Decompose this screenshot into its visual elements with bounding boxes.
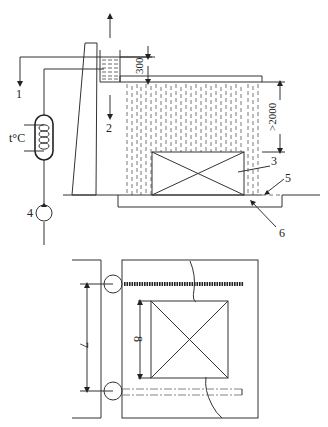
nozzle-5: 5 [262,171,291,195]
break-line-top [190,261,196,302]
schematic-diagram: 1 t°C 4 [0,0,328,427]
spray-rain [127,84,258,195]
heater: t°C [9,115,53,160]
heater-temp-label: t°C [9,131,25,145]
plan-view: 7 8 [72,260,258,418]
dimension-2000: >2000 [262,83,285,152]
dimension-300: 300 [120,46,155,82]
label-7: 7 [77,342,91,348]
label-2: 2 [106,121,112,135]
label-1: 1 [16,87,22,101]
dimension-2000-label: >2000 [266,102,278,131]
overflow-tank [100,50,120,82]
inlet-arrow-2: 2 [106,95,112,135]
distribution-plate [120,76,262,82]
basin-6: 6 [118,195,320,240]
specimen-3: 3 [152,152,277,195]
heating-coil-icon [39,125,49,149]
supply-pipe [44,69,104,245]
dimension-300-label: 300 [133,57,145,74]
label-3: 3 [271,154,277,168]
dimension-7: 7 [77,285,91,390]
label-5: 5 [285,171,291,185]
pump: 4 [27,203,52,221]
pump-icon [36,205,52,221]
label-4: 4 [27,206,33,220]
break-line-bottom [206,377,222,418]
plan-specimen: 8 [131,301,228,378]
label-6: 6 [279,226,285,240]
label-8: 8 [131,336,145,342]
elevation-view: 1 t°C 4 [9,16,320,245]
tower-wall [72,43,97,195]
